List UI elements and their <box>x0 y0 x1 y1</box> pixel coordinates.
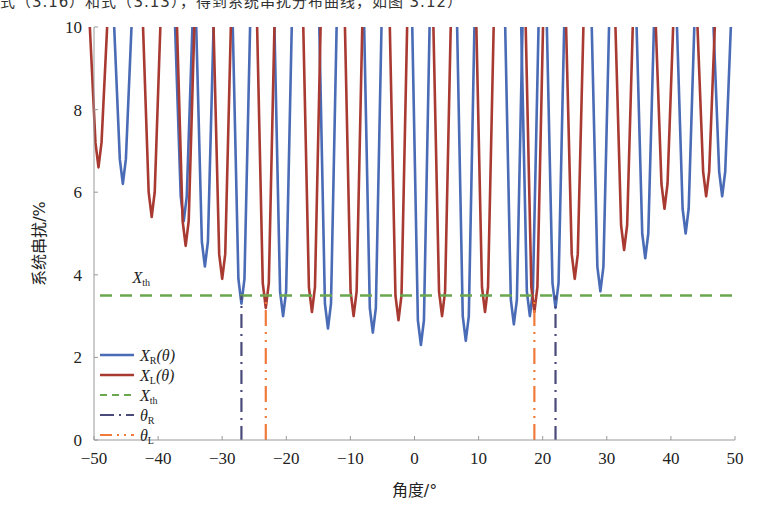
xl-dip <box>303 27 320 312</box>
xr-dip <box>637 27 654 258</box>
xl-dip <box>257 27 274 308</box>
y-axis-title: 系统串扰/% <box>30 201 49 286</box>
x-tick-label: 40 <box>662 449 679 468</box>
xl-dip <box>143 27 160 217</box>
legend-label: θR <box>140 407 155 426</box>
xl-dip <box>656 27 673 209</box>
xl-dip <box>90 27 107 167</box>
x-tick-label: 10 <box>470 449 487 468</box>
legend-label: XL(θ) <box>139 367 174 386</box>
x-tick-label: 50 <box>727 449 744 468</box>
x-tick-label: −40 <box>145 449 172 468</box>
crosstalk-chart: Xth 0246810−50−40−30−20−1001020304050 XR… <box>0 0 762 513</box>
y-tick-label: 10 <box>65 18 82 37</box>
xr-dip <box>364 27 381 333</box>
y-tick-label: 4 <box>74 266 83 285</box>
xr-dip <box>196 27 213 267</box>
xl-dip <box>433 27 450 316</box>
x-tick-label: 0 <box>410 449 419 468</box>
xr-dip <box>233 27 250 304</box>
legend: XR(θ)XL(θ)XthθRθL <box>100 347 175 446</box>
legend-label: XR(θ) <box>139 347 175 366</box>
y-tick-label: 8 <box>74 101 83 120</box>
y-tick-label: 0 <box>74 431 83 450</box>
xr-dip <box>714 27 731 196</box>
x-tick-label: −20 <box>273 449 300 468</box>
y-tick-label: 2 <box>74 348 83 367</box>
xl-dip <box>345 27 362 316</box>
xr-dip <box>114 27 131 184</box>
xl-dip <box>615 27 632 250</box>
xr-dip <box>505 27 522 324</box>
legend-label: θL <box>140 427 154 446</box>
x-tick-label: 20 <box>534 449 551 468</box>
axes-layer: 0246810−50−40−30−20−1001020304050 <box>65 18 744 468</box>
xr-dip <box>274 27 291 316</box>
curves-layer <box>90 27 731 345</box>
y-tick-label: 6 <box>74 183 83 202</box>
x-tick-label: −10 <box>337 449 364 468</box>
x-tick-label: −30 <box>209 449 236 468</box>
xl-dip <box>698 27 715 196</box>
xl-dip <box>566 27 583 279</box>
xr-dip <box>457 27 474 341</box>
xr-dip <box>677 27 694 234</box>
xl-dip <box>214 27 231 279</box>
xr-dip <box>592 27 609 291</box>
xr-dip <box>547 27 564 308</box>
xr-dip <box>412 27 429 345</box>
legend-label: Xth <box>139 387 158 406</box>
x-tick-label: −50 <box>81 449 108 468</box>
xl-dip <box>476 27 493 312</box>
threshold-annotation: Xth <box>131 269 150 288</box>
xr-dip <box>319 27 336 328</box>
xl-dip <box>390 27 407 320</box>
x-tick-label: 30 <box>598 449 615 468</box>
x-axis-title: 角度/° <box>392 481 437 500</box>
